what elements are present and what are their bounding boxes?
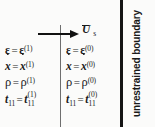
subscript-component-index: 11 [8, 96, 15, 111]
equation-stress-inner: t 11 = t (1) 11 [5, 91, 38, 106]
overdot-icon [7, 53, 9, 55]
overdot-icon [22, 53, 24, 55]
superscript-region-index: (0) [85, 41, 93, 56]
subscript-component-index: 11 [69, 96, 76, 111]
equation-stress-outer: t 11 = t (0) 11 [66, 91, 99, 106]
interface-jump-conditions-figure: ε = ε (1) x = x (1) ρ = ρ (1) t 11 [0, 0, 155, 127]
velocity-symbol-lhs: x [5, 59, 11, 74]
unrestrained-boundary-label: unrestrained boundary [129, 0, 143, 127]
outer-region-equations: ε = ε (0) x = x (0) ρ = ρ (0) t 11 [66, 43, 99, 106]
shock-interface-line [60, 25, 61, 127]
equals-sign: = [72, 75, 81, 90]
superscript-region-index: (0) [87, 57, 95, 72]
shock-velocity-arrow-icon [38, 30, 80, 38]
equals-sign: = [11, 75, 20, 90]
overdot-icon [68, 53, 70, 55]
stress-indices-inner: (1) 11 [27, 91, 38, 103]
arrow-head [70, 30, 79, 38]
overdot-icon [83, 53, 85, 55]
subscript-component-index: 11 [27, 96, 34, 111]
equals-sign: = [10, 43, 19, 58]
inner-region-equations: ε = ε (1) x = x (1) ρ = ρ (1) t 11 [5, 43, 38, 106]
equals-sign: = [76, 92, 85, 107]
equals-sign: = [71, 43, 80, 58]
superscript-region-index: (1) [26, 57, 34, 72]
arrow-shaft [38, 33, 72, 35]
overbar-icon [82, 25, 89, 26]
stress-indices-outer: (0) 11 [88, 91, 99, 103]
equals-sign: = [15, 92, 24, 107]
superscript-region-index: (1) [27, 73, 35, 88]
velocity-subscript: s [93, 29, 96, 38]
equals-sign: = [72, 59, 81, 74]
shock-velocity-label: U s [82, 23, 96, 35]
equals-sign: = [11, 59, 20, 74]
subscript-component-index: 11 [88, 96, 95, 111]
velocity-symbol-lhs: x [66, 59, 72, 74]
superscript-region-index: (0) [88, 73, 96, 88]
unrestrained-boundary-line [120, 0, 123, 127]
superscript-region-index: (1) [24, 41, 32, 56]
